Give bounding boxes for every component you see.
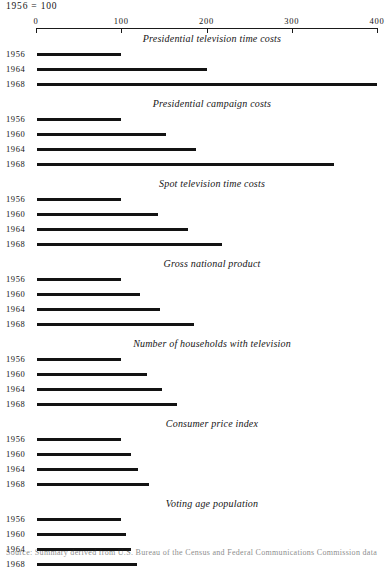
chart-row: 1964 (0, 302, 388, 317)
chart-bar (37, 373, 147, 376)
row-year-label: 1956 (6, 434, 34, 444)
chart-row: 1968 (0, 557, 388, 571)
chart-row: 1956 (0, 272, 388, 287)
chart-bar (37, 483, 149, 486)
row-year-label: 1968 (6, 399, 34, 409)
chart-row: 1964 (0, 62, 388, 77)
chart-bar (37, 323, 194, 326)
chart-row: 1956 (0, 112, 388, 127)
row-year-label: 1960 (6, 129, 34, 139)
chart-bar (37, 438, 121, 441)
row-year-label: 1968 (6, 319, 34, 329)
row-year-label: 1968 (6, 79, 34, 89)
panel-title: Presidential campaign costs (0, 98, 388, 109)
chart-row: 1964 (0, 462, 388, 477)
axis-tick-label: 400 (370, 16, 385, 26)
chart-row: 1960 (0, 207, 388, 222)
chart-bar (37, 563, 137, 566)
chart-row: 1968 (0, 157, 388, 172)
axis-tick-label: 200 (199, 16, 214, 26)
chart-bar (37, 243, 222, 246)
panel-rows: 195619641968 (0, 47, 388, 92)
chart-row: 1968 (0, 397, 388, 412)
row-year-label: 1956 (6, 354, 34, 364)
axis-tick-label: 300 (284, 16, 299, 26)
row-year-label: 1956 (6, 514, 34, 524)
chart-row: 1960 (0, 527, 388, 542)
panel-rows: 1956196019641968 (0, 272, 388, 332)
chart-row: 1968 (0, 317, 388, 332)
chart-bar (37, 403, 177, 406)
source-note: Source: Summary derived from U.S. Bureau… (6, 548, 386, 557)
chart-row: 1960 (0, 287, 388, 302)
panel-title: Consumer price index (0, 418, 388, 429)
row-year-label: 1956 (6, 114, 34, 124)
chart-row: 1956 (0, 47, 388, 62)
chart-bar (37, 293, 140, 296)
row-year-label: 1964 (6, 64, 34, 74)
value-axis: 0100200300400 (0, 17, 388, 33)
chart-row: 1960 (0, 127, 388, 142)
axis-tick-label: 0 (34, 16, 39, 26)
chart-bar (37, 468, 138, 471)
axis-tick-label: 100 (114, 16, 129, 26)
row-year-label: 1960 (6, 209, 34, 219)
chart-row: 1964 (0, 382, 388, 397)
row-year-label: 1956 (6, 194, 34, 204)
row-year-label: 1964 (6, 384, 34, 394)
chart-bar (37, 278, 121, 281)
row-year-label: 1964 (6, 464, 34, 474)
panel-title: Voting age population (0, 498, 388, 509)
chart-row: 1964 (0, 222, 388, 237)
chart-bar (37, 388, 162, 391)
row-year-label: 1964 (6, 144, 34, 154)
row-year-label: 1968 (6, 239, 34, 249)
panel-title: Gross national product (0, 258, 388, 269)
panel-rows: 1956196019641968 (0, 192, 388, 252)
chart-bar (37, 133, 166, 136)
chart-bar (37, 68, 207, 71)
chart-row: 1960 (0, 447, 388, 462)
panel-rows: 1956196019641968 (0, 352, 388, 412)
index-base-note: 1956 = 100 (6, 1, 57, 11)
panel-title: Presidential television time costs (0, 33, 388, 44)
chart-bar (37, 163, 334, 166)
chart-bar (37, 533, 126, 536)
row-year-label: 1964 (6, 304, 34, 314)
row-year-label: 1960 (6, 369, 34, 379)
row-year-label: 1968 (6, 559, 34, 569)
row-year-label: 1968 (6, 479, 34, 489)
chart-row: 1960 (0, 367, 388, 382)
row-year-label: 1956 (6, 49, 34, 59)
chart-bar (37, 118, 121, 121)
chart-row: 1956 (0, 512, 388, 527)
chart-bar (37, 453, 131, 456)
chart-row: 1964 (0, 142, 388, 157)
chart-bar (37, 148, 196, 151)
panel-rows: 1956196019641968 (0, 112, 388, 172)
panel-rows: 1956196019641968 (0, 512, 388, 571)
chart-row: 1956 (0, 432, 388, 447)
row-year-label: 1960 (6, 529, 34, 539)
row-year-label: 1968 (6, 159, 34, 169)
row-year-label: 1960 (6, 289, 34, 299)
row-year-label: 1960 (6, 449, 34, 459)
chart-bar (37, 228, 188, 231)
chart-row: 1968 (0, 477, 388, 492)
chart-row: 1956 (0, 352, 388, 367)
chart-row: 1956 (0, 192, 388, 207)
chart-bar (37, 53, 121, 56)
row-year-label: 1956 (6, 274, 34, 284)
chart-bar (37, 198, 121, 201)
panel-rows: 1956196019641968 (0, 432, 388, 492)
chart-row: 1968 (0, 77, 388, 92)
chart-bar (37, 308, 160, 311)
chart-row: 1968 (0, 237, 388, 252)
chart-bar (37, 358, 121, 361)
chart-bar (37, 213, 158, 216)
chart-bar (37, 83, 377, 86)
panel-title: Spot television time costs (0, 178, 388, 189)
panel-title: Number of households with television (0, 338, 388, 349)
row-year-label: 1964 (6, 224, 34, 234)
